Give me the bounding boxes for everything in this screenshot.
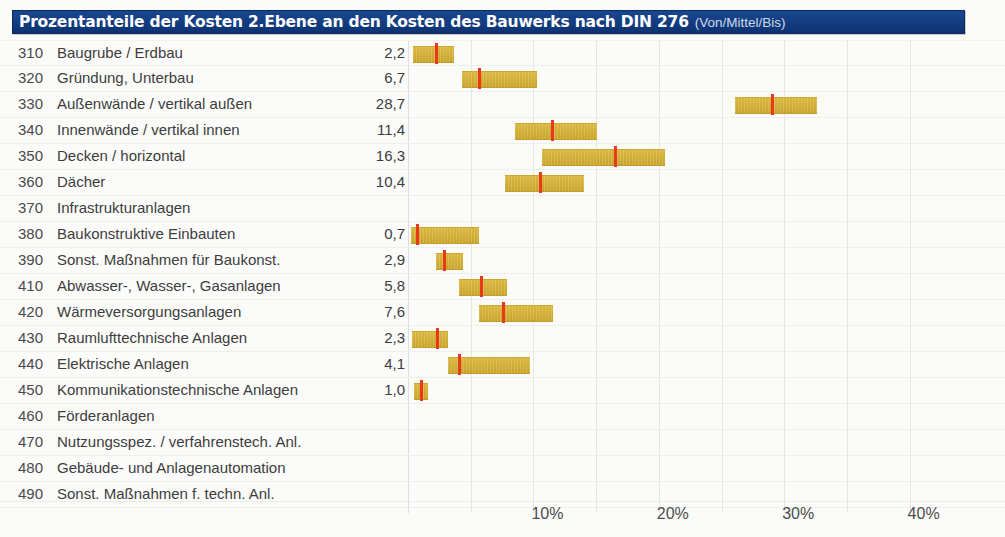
table-row[interactable]: 420Wärmeversorgungsanlagen7,6 — [0, 300, 1005, 326]
range-bar — [479, 305, 553, 322]
table-row[interactable]: 460Förderanlagen — [0, 404, 1005, 430]
table-row[interactable]: 390Sonst. Maßnahmen für Baukonst.2,9 — [0, 248, 1005, 274]
row-bar-area — [0, 274, 1005, 299]
table-row[interactable]: 310Baugrube / Erdbau2,2 — [0, 40, 1005, 66]
range-bar — [515, 123, 598, 140]
table-row[interactable]: 360Dächer10,4 — [0, 170, 1005, 196]
row-bar-area — [0, 196, 1005, 221]
row-bar-area — [0, 92, 1005, 117]
median-marker — [443, 250, 446, 271]
range-bar — [505, 175, 584, 192]
table-row[interactable]: 380Baukonstruktive Einbauten0,7 — [0, 222, 1005, 248]
x-tick-label: 20% — [657, 505, 689, 523]
axis-baseline — [0, 501, 1005, 502]
row-bar-area — [0, 482, 1005, 507]
median-marker — [771, 94, 774, 115]
x-tick-label: 30% — [782, 505, 814, 523]
table-row[interactable]: 350Decken / horizontal16,3 — [0, 144, 1005, 170]
median-marker — [502, 302, 505, 323]
median-marker — [614, 146, 617, 167]
range-bar — [735, 97, 817, 114]
row-bar-area — [0, 170, 1005, 195]
x-tick-label: 40% — [908, 505, 940, 523]
row-bar-area — [0, 66, 1005, 91]
row-bar-area — [0, 430, 1005, 455]
median-marker — [436, 328, 439, 349]
row-bar-area — [0, 118, 1005, 143]
range-bar — [542, 149, 665, 166]
table-row[interactable]: 450Kommunikationstechnische Anlagen1,0 — [0, 378, 1005, 404]
row-bar-area — [0, 248, 1005, 273]
table-row[interactable]: 340Innenwände / vertikal innen11,4 — [0, 118, 1005, 144]
median-marker — [458, 354, 461, 375]
median-marker — [478, 68, 481, 89]
x-axis: 10%20%30%40% — [0, 505, 1005, 537]
table-row[interactable]: 480Gebäude- und Anlagenautomation — [0, 456, 1005, 482]
range-bar — [411, 227, 480, 244]
table-row[interactable]: 330Außenwände / vertikal außen28,7 — [0, 92, 1005, 118]
range-bar — [436, 253, 464, 270]
table-row[interactable]: 430Raumlufttechnische Anlagen2,3 — [0, 326, 1005, 352]
table-row[interactable]: 410Abwasser-, Wasser-, Gasanlagen5,8 — [0, 274, 1005, 300]
chart-sheet: Prozentanteile der Kosten 2.Ebene an den… — [0, 0, 1005, 537]
row-bar-area — [0, 352, 1005, 377]
x-tick-label: 10% — [531, 505, 563, 523]
range-bar — [462, 71, 537, 88]
table-row[interactable]: 470Nutzungsspez. / verfahrenstech. Anl. — [0, 430, 1005, 456]
median-marker — [551, 120, 554, 141]
title-subnote: (Von/Mittel/Bis) — [695, 15, 786, 30]
median-marker — [539, 172, 542, 193]
row-bar-area — [0, 300, 1005, 325]
table-row[interactable]: 320Gründung, Unterbau6,7 — [0, 66, 1005, 92]
row-bar-area — [0, 378, 1005, 403]
row-bar-area — [0, 222, 1005, 247]
median-marker — [480, 276, 483, 297]
row-bar-area — [0, 456, 1005, 481]
chart-title-bar: Prozentanteile der Kosten 2.Ebene an den… — [12, 10, 965, 34]
page-title: Prozentanteile der Kosten 2.Ebene an den… — [19, 13, 689, 31]
row-bar-area — [0, 41, 1005, 65]
table-row[interactable]: 440Elektrische Anlagen4,1 — [0, 352, 1005, 378]
row-bar-area — [0, 326, 1005, 351]
chart-rows: 310Baugrube / Erdbau2,2320Gründung, Unte… — [0, 40, 1005, 508]
row-bar-area — [0, 404, 1005, 429]
median-marker — [416, 224, 419, 245]
range-bar — [412, 331, 448, 348]
range-bar — [459, 279, 507, 296]
row-bar-area — [0, 144, 1005, 169]
median-marker — [420, 380, 423, 401]
table-row[interactable]: 370Infrastrukturanlagen — [0, 196, 1005, 222]
median-marker — [435, 43, 438, 64]
